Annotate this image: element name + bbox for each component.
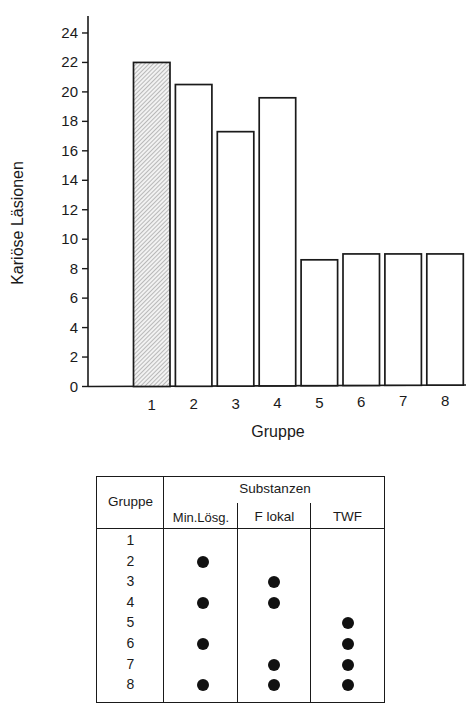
bar-group-6	[343, 254, 380, 386]
bar-group-5	[301, 260, 338, 386]
y-tick-label: 2	[70, 348, 78, 365]
y-tick-label: 0	[70, 378, 78, 395]
table-header-gruppe: Gruppe	[97, 494, 164, 509]
dot-f-lokal-group-8	[268, 679, 280, 691]
divider-f-twf	[310, 503, 311, 702]
dot-f-lokal-group-3	[268, 576, 280, 588]
x-axis-title: Gruppe	[251, 423, 304, 440]
dot-f-lokal-group-4	[268, 597, 280, 609]
table-row-group-label: 8	[97, 676, 164, 692]
divider-header	[97, 528, 384, 529]
y-tick-label: 8	[70, 260, 78, 277]
dot-twf-group-7	[342, 659, 354, 671]
table-row-group-label: 4	[97, 594, 164, 610]
y-tick-label: 4	[70, 319, 78, 336]
dot-twf-group-8	[342, 679, 354, 691]
x-tick-labels: 12345678	[148, 392, 450, 413]
dot-min-loesg-group-8	[197, 679, 209, 691]
dot-f-lokal-group-7	[268, 659, 280, 671]
table-header-substanzen: Substanzen	[164, 481, 386, 496]
y-tick-label: 24	[61, 24, 78, 41]
table-header-f-lokal: F lokal	[238, 509, 311, 524]
y-tick-label: 18	[61, 112, 78, 129]
divider-min-f	[237, 503, 238, 702]
bar-group-4	[259, 98, 296, 386]
table-header-twf: TWF	[311, 509, 384, 524]
x-tick-label: 2	[189, 395, 197, 412]
y-tick-label: 20	[61, 83, 78, 100]
table-row-group-label: 5	[97, 614, 164, 630]
x-tick-label: 5	[315, 394, 323, 411]
bar-chart: 024681012141618202224 12345678 Kariöse L…	[0, 0, 473, 450]
y-tick-label: 22	[61, 53, 78, 70]
y-tick-label: 14	[61, 171, 78, 188]
x-tick-label: 1	[148, 396, 156, 413]
bar-group-8	[427, 254, 464, 385]
x-tick-label: 6	[357, 393, 365, 410]
dot-min-loesg-group-2	[197, 556, 209, 568]
x-tick-label: 3	[231, 395, 239, 412]
table-row-group-label: 1	[97, 532, 164, 548]
substances-table: Gruppe Substanzen Min.Lösg. F lokal TWF …	[96, 476, 385, 703]
y-tick-label: 16	[61, 142, 78, 159]
table-header-min-loesg: Min.Lösg.	[164, 510, 238, 525]
dot-min-loesg-group-6	[197, 638, 209, 650]
y-axis-title: Kariöse Läsionen	[9, 161, 26, 285]
dot-twf-group-5	[342, 617, 354, 629]
table-row-group-label: 3	[97, 573, 164, 589]
bar-group-7	[385, 254, 422, 385]
bar-group-1	[134, 62, 171, 386]
dot-min-loesg-group-4	[197, 597, 209, 609]
table-row-group-label: 6	[97, 635, 164, 651]
y-axis: 024681012141618202224	[61, 16, 88, 395]
x-tick-label: 7	[399, 392, 407, 409]
x-tick-label: 4	[273, 394, 281, 411]
y-tick-label: 6	[70, 289, 78, 306]
table-row-group-label: 7	[97, 656, 164, 672]
y-tick-label: 10	[61, 230, 78, 247]
bars	[134, 62, 464, 386]
table-row-group-label: 2	[97, 553, 164, 569]
x-tick-label: 8	[441, 392, 449, 409]
dot-twf-group-6	[342, 638, 354, 650]
bar-group-2	[175, 85, 212, 387]
y-tick-label: 12	[61, 201, 78, 218]
bar-group-3	[217, 132, 254, 386]
